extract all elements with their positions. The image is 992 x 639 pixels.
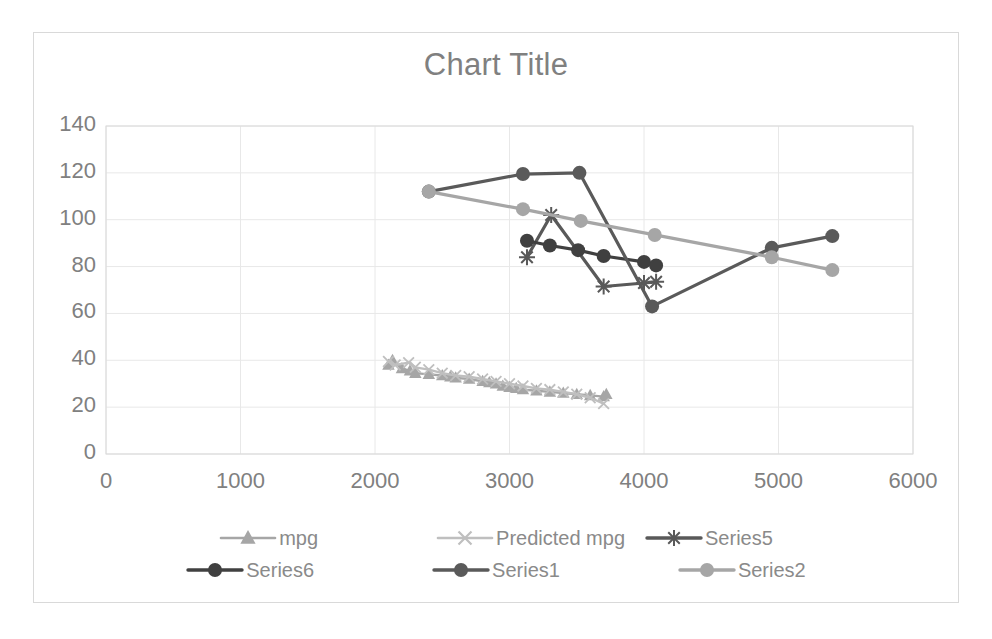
y-axis-tick-label: 80: [36, 252, 96, 278]
data-point-marker: [637, 255, 651, 269]
x-axis-tick-label: 3000: [465, 468, 555, 494]
series-series1: [422, 166, 840, 314]
y-axis-tick-label: 100: [36, 205, 96, 231]
y-axis-tick-label: 140: [36, 111, 96, 137]
legend-item-series2[interactable]: Series2: [678, 557, 806, 583]
legend-marker-x-icon: [436, 525, 494, 551]
data-point-marker: [649, 258, 663, 272]
y-axis-tick-label: 40: [36, 345, 96, 371]
data-point-marker: [422, 185, 436, 199]
data-point-marker: [516, 167, 530, 181]
x-axis-tick-label: 5000: [734, 468, 824, 494]
data-point-marker: [520, 234, 534, 248]
legend-item-mpg[interactable]: mpg: [219, 525, 318, 551]
data-point-marker: [648, 228, 662, 242]
data-point-marker: [597, 249, 611, 263]
legend-label: Series1: [492, 559, 560, 582]
x-axis-tick-label: 2000: [330, 468, 420, 494]
legend-item-series1[interactable]: Series1: [432, 557, 560, 583]
series-line: [429, 173, 833, 307]
data-point-marker: [572, 166, 586, 180]
data-point-marker: [208, 563, 222, 577]
data-point-marker: [645, 299, 659, 313]
x-axis-tick-label: 0: [61, 468, 151, 494]
data-point-marker: [700, 563, 714, 577]
data-point-marker: [596, 278, 612, 294]
y-axis-tick-label: 120: [36, 158, 96, 184]
legend-label: Predicted mpg: [496, 527, 625, 550]
data-point-marker: [765, 250, 779, 264]
legend-label: Series2: [738, 559, 806, 582]
legend-marker-circle-icon: [186, 557, 244, 583]
legend-marker-asterisk-icon: [645, 525, 703, 551]
data-point-marker: [825, 229, 839, 243]
y-axis-tick-label: 0: [36, 439, 96, 465]
legend-item-predicted-mpg[interactable]: Predicted mpg: [436, 525, 625, 551]
x-axis-tick-label: 1000: [196, 468, 286, 494]
legend-marker-triangle-icon: [219, 525, 277, 551]
data-point-marker: [574, 214, 588, 228]
plot-area: [34, 33, 960, 604]
legend-marker-circle-icon: [432, 557, 490, 583]
series-series2: [422, 185, 840, 277]
data-point-marker: [648, 274, 664, 290]
legend-row: Series6Series1Series2: [186, 557, 805, 583]
chart-legend: mpgPredicted mpgSeries5Series6Series1Ser…: [34, 525, 958, 583]
data-point-marker: [454, 563, 468, 577]
data-point-marker: [571, 243, 585, 257]
legend-row: mpgPredicted mpgSeries5: [219, 525, 773, 551]
x-axis-tick-label: 4000: [599, 468, 689, 494]
series-predicted-mpg: [383, 356, 609, 409]
legend-item-series6[interactable]: Series6: [186, 557, 314, 583]
chart-frame: Chart Title 020406080100120140 010002000…: [33, 32, 959, 603]
y-axis-tick-label: 60: [36, 298, 96, 324]
x-axis-tick-label: 6000: [868, 468, 958, 494]
data-point-marker: [825, 263, 839, 277]
data-point-marker: [666, 530, 682, 546]
legend-label: mpg: [279, 527, 318, 550]
y-axis-tick-label: 20: [36, 392, 96, 418]
legend-label: Series5: [705, 527, 773, 550]
legend-label: Series6: [246, 559, 314, 582]
legend-marker-circle-icon: [678, 557, 736, 583]
data-point-marker: [519, 249, 535, 265]
legend-item-series5[interactable]: Series5: [645, 525, 773, 551]
data-point-marker: [516, 202, 530, 216]
data-point-marker: [543, 238, 557, 252]
